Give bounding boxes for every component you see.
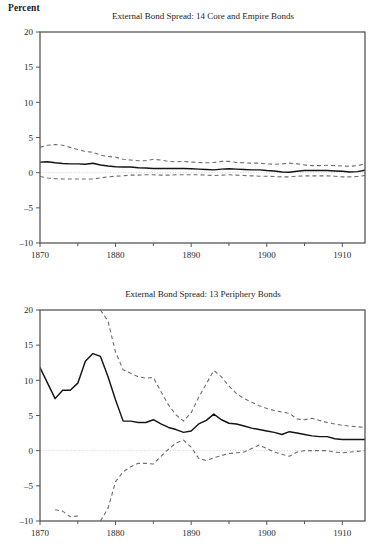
x-axis-tick-label: 1900 bbox=[258, 528, 277, 538]
x-axis-tick-label: 1880 bbox=[107, 528, 126, 538]
series-group bbox=[40, 145, 365, 179]
plot-area-periphery: 20151050–5–1018701880189019001910 bbox=[0, 278, 377, 553]
chart-panel-periphery: External Bond Spread: 13 Periphery Bonds… bbox=[0, 278, 377, 553]
plot-frame bbox=[40, 310, 365, 521]
y-axis-tick-label: 10 bbox=[24, 98, 34, 108]
x-axis-tick-label: 1910 bbox=[333, 250, 352, 260]
plot-area-core-empire: 20151050–5–1018701880189019001910 bbox=[0, 0, 377, 275]
figure-external-bond-spreads: Percent External Bond Spread: 14 Core an… bbox=[0, 0, 377, 553]
y-axis-tick-label: –5 bbox=[23, 481, 34, 491]
plot-frame bbox=[40, 32, 365, 243]
y-axis-tick-label: 0 bbox=[29, 168, 34, 178]
series-line-lower-band bbox=[40, 175, 365, 179]
y-axis-tick-label: 5 bbox=[29, 133, 34, 143]
x-axis-tick-label: 1880 bbox=[107, 250, 126, 260]
y-axis-tick-label: 15 bbox=[24, 340, 34, 350]
series-line-lower-band bbox=[55, 510, 78, 517]
x-axis-tick-label: 1870 bbox=[31, 528, 50, 538]
y-axis-tick-label: 20 bbox=[24, 27, 34, 37]
x-axis-tick-label: 1890 bbox=[182, 250, 201, 260]
x-axis-tick-label: 1890 bbox=[182, 528, 201, 538]
x-axis-tick-label: 1900 bbox=[258, 250, 277, 260]
y-axis-tick-label: –10 bbox=[19, 516, 34, 526]
y-axis-tick-label: –5 bbox=[23, 203, 34, 213]
x-axis-tick-label: 1910 bbox=[333, 528, 352, 538]
chart-panel-core-empire: Percent External Bond Spread: 14 Core an… bbox=[0, 0, 377, 275]
series-line-mean bbox=[40, 162, 365, 173]
series-group bbox=[40, 310, 365, 521]
y-axis-tick-label: –10 bbox=[19, 238, 34, 248]
y-axis-tick-label: 15 bbox=[24, 62, 34, 72]
x-axis-tick-label: 1870 bbox=[31, 250, 50, 260]
y-axis-tick-label: 20 bbox=[24, 305, 34, 315]
series-line-lower-band bbox=[100, 440, 365, 521]
series-line-upper-band bbox=[100, 310, 365, 427]
y-axis-tick-label: 10 bbox=[24, 376, 34, 386]
y-axis-tick-label: 0 bbox=[29, 446, 34, 456]
y-axis-tick-label: 5 bbox=[29, 411, 34, 421]
series-line-mean bbox=[40, 354, 365, 440]
